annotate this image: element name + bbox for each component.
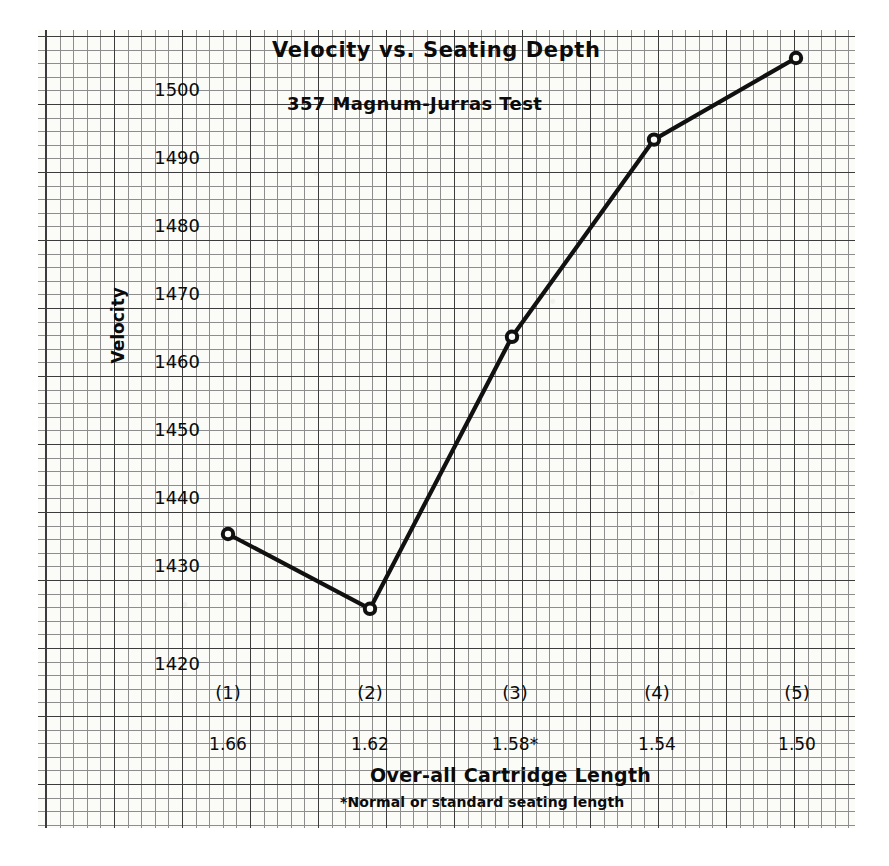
y-tick-label: 1420 (140, 655, 200, 673)
y-tick-label: 1490 (140, 149, 200, 167)
x-tick-label: 1.62 (325, 736, 415, 753)
x-group-label: (3) (470, 684, 560, 702)
x-group-label: (4) (612, 684, 702, 702)
x-tick-label: 1.66 (183, 736, 273, 753)
x-group-label: (5) (752, 684, 842, 702)
x-group-label: (1) (183, 684, 273, 702)
x-group-label: (2) (325, 684, 415, 702)
chart-title: Velocity vs. Seating Depth (272, 40, 601, 61)
y-tick-label: 1480 (140, 217, 200, 235)
y-tick-label: 1470 (140, 285, 200, 303)
footnote: *Normal or standard seating length (340, 795, 624, 809)
chart-subtitle: 357 Magnum-Jurras Test (287, 95, 542, 113)
y-axis-title: Velocity (110, 300, 127, 364)
y-tick-label: 1450 (140, 421, 200, 439)
x-tick-label: 1.54 (612, 736, 702, 753)
y-tick-label: 1460 (140, 353, 200, 371)
chart-page: Velocity vs. Seating Depth 357 Magnum-Ju… (0, 0, 889, 866)
x-tick-label: 1.50 (752, 736, 842, 753)
y-tick-label: 1500 (140, 81, 200, 99)
x-tick-label: 1.58* (470, 736, 560, 753)
y-tick-label: 1430 (140, 557, 200, 575)
y-tick-label: 1440 (140, 489, 200, 507)
x-axis-title: Over-all Cartridge Length (370, 766, 651, 785)
